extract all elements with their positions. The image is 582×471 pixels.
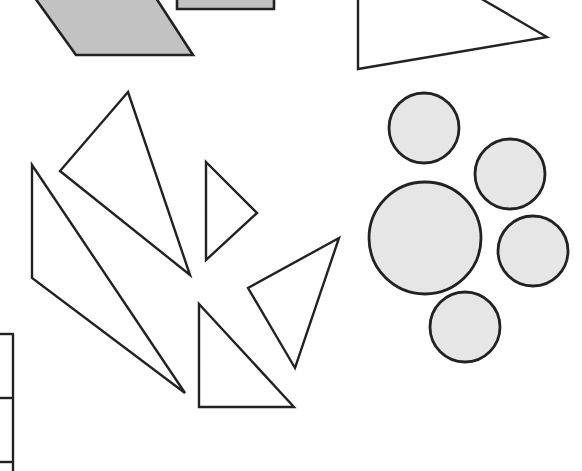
triangle-top-right — [358, 0, 547, 69]
left-box-group — [0, 334, 14, 471]
triangle-small-right-pointing — [206, 162, 257, 260]
circle-large — [369, 182, 481, 294]
circle-upper-right — [475, 139, 545, 209]
quadrilateral-group — [35, 0, 274, 55]
circle-bottom — [430, 292, 500, 362]
rectangle — [177, 0, 274, 9]
circle-top — [389, 93, 459, 163]
circle-right — [498, 216, 568, 286]
triangle-tilted — [248, 238, 339, 368]
circle-group — [369, 93, 568, 362]
parallelogram — [35, 0, 193, 55]
shapes-diagram — [0, 0, 582, 471]
